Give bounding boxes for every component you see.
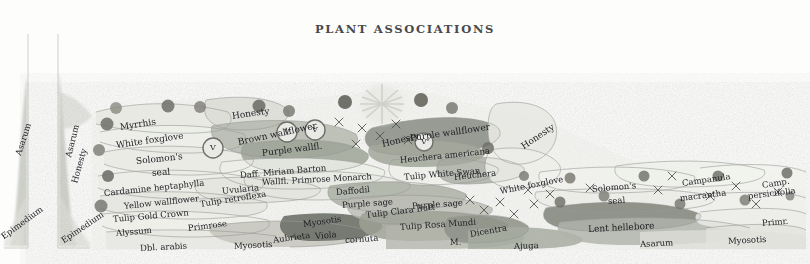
flower-starburst xyxy=(360,84,404,124)
viola-marker-letter: V xyxy=(312,125,318,134)
viola-marker-letter: V xyxy=(210,143,216,152)
viola-marker-letter: V xyxy=(421,137,427,146)
page-title: PLANT ASSOCIATIONS xyxy=(0,22,810,36)
plant-associations-plan: PLANT ASSOCIATIONS AsarumEpimediumAsarum… xyxy=(0,0,810,264)
planting-plan-artwork xyxy=(0,0,810,264)
viola-marker-letter: V xyxy=(284,127,290,136)
